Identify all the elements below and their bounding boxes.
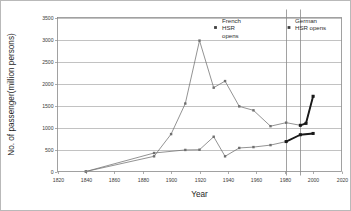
data-point: [312, 95, 315, 98]
y-tick-label: 2000: [42, 81, 53, 87]
data-point: [170, 133, 172, 135]
x-axis-title: Year: [191, 190, 208, 199]
data-point: [184, 102, 186, 104]
data-point: [252, 146, 254, 148]
y-tick-label: 3500: [42, 15, 53, 21]
x-tick-label: 1940: [223, 177, 234, 183]
annotation-text: HSR opens: [295, 24, 326, 31]
y-tick-label: 1500: [42, 103, 53, 109]
y-tick-label: 1000: [42, 125, 53, 131]
data-point: [269, 144, 271, 146]
data-point: [224, 155, 226, 157]
x-tick-label: 1920: [195, 177, 206, 183]
data-point: [299, 124, 302, 127]
data-point: [269, 125, 271, 127]
y-tick-label: 3000: [42, 37, 53, 43]
chart-figure: 1820184018601880190019201940196019802000…: [0, 0, 351, 211]
data-point: [285, 140, 288, 143]
annotation-layer: FrenchHSRopensGermanHSR opens: [214, 17, 326, 39]
x-tick-label: 1840: [81, 177, 92, 183]
series-upper-series: [85, 39, 315, 172]
x-tick-label: 1860: [109, 177, 120, 183]
data-point: [238, 105, 240, 107]
data-point: [213, 86, 215, 88]
data-point: [224, 80, 226, 82]
gridlines: [58, 19, 342, 151]
y-axis-title: No. of passenger(million persons): [7, 33, 16, 156]
data-point: [299, 133, 302, 136]
annotation-marker-icon: [214, 26, 217, 29]
annotation-french-hsr: FrenchHSRopens: [214, 17, 241, 39]
line-chart: 1820184018601880190019201940196019802000…: [1, 1, 351, 211]
data-point: [153, 155, 155, 157]
x-tick-label: 1900: [166, 177, 177, 183]
x-tick-label: 1880: [138, 177, 149, 183]
series-lower-series: [85, 132, 315, 172]
series-lower-highlight: [285, 132, 315, 143]
series-upper-highlight: [299, 95, 315, 127]
x-tick-label: 1820: [53, 177, 64, 183]
data-point: [184, 149, 186, 151]
data-point: [312, 132, 315, 135]
data-point: [198, 149, 200, 151]
data-point: [305, 122, 308, 125]
y-axis-ticks: 0500100015002000250030003500: [42, 15, 57, 175]
x-tick-label: 1980: [280, 177, 291, 183]
chart-canvas: 1820184018601880190019201940196019802000…: [1, 1, 351, 211]
data-point: [213, 136, 215, 138]
data-point: [153, 152, 155, 154]
x-axis-ticks: 1820184018601880190019201940196019802000…: [53, 172, 348, 183]
data-point: [238, 147, 240, 149]
data-point: [285, 121, 287, 123]
y-tick-label: 2500: [42, 59, 53, 65]
y-tick-label: 0: [51, 169, 54, 175]
x-tick-label: 1960: [251, 177, 262, 183]
axis-lines: YearNo. of passenger(million persons): [7, 18, 342, 200]
annotation-marker-icon: [288, 26, 291, 29]
data-point: [198, 39, 200, 41]
annotation-text: opens: [222, 32, 239, 39]
data-series-layer: [85, 39, 315, 172]
annotation-text: HSR: [222, 24, 235, 31]
data-point: [252, 109, 254, 111]
y-tick-label: 500: [45, 147, 54, 153]
x-tick-label: 2000: [308, 177, 319, 183]
x-tick-label: 2020: [337, 177, 348, 183]
